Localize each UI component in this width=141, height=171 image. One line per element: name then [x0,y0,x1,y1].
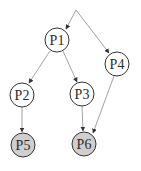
edge-p4-p6 [93,76,114,133]
node-label: P3 [75,87,90,102]
node-p4[interactable]: P4 [105,52,129,76]
edges [22,10,114,133]
edge-p1-p2 [29,51,50,83]
edge-root-p4 [76,10,109,53]
node-p5[interactable]: P5 [11,133,35,157]
edge-p3-p6 [82,106,83,131]
node-p1[interactable]: P1 [45,28,69,52]
node-p6[interactable]: P6 [72,132,96,156]
node-p2[interactable]: P2 [10,83,34,107]
node-label: P6 [77,137,92,152]
node-label: P4 [110,57,125,72]
node-label: P1 [50,33,65,48]
node-label: P5 [16,138,31,153]
edge-root-p1 [66,10,76,29]
edge-p1-p3 [63,51,77,82]
node-p3[interactable]: P3 [70,82,94,106]
node-label: P2 [15,88,30,103]
dependency-graph: P1 P2 P3 P4 P5 P6 [0,0,141,171]
